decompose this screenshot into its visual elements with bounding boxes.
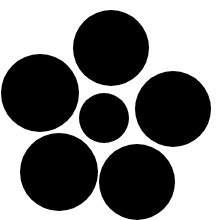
center-circle [79, 93, 129, 143]
top-circle [73, 10, 149, 86]
left-circle [1, 54, 79, 132]
bottom-left-circle [20, 133, 98, 211]
right-circle [135, 71, 211, 147]
bottom-right-circle [99, 144, 175, 220]
circles-figure [0, 0, 216, 220]
